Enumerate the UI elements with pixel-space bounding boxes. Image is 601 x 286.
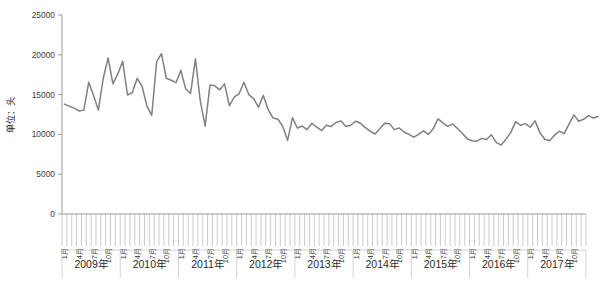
line-chart: 0500010000150002000025000 1月4月7月10月1月4月7…	[0, 0, 601, 286]
y-axis-title: 单位：头	[5, 97, 16, 133]
y-tick-label: 25000	[32, 10, 56, 20]
x-year-label: 2012年	[249, 258, 282, 270]
x-year-label: 2013年	[307, 258, 340, 270]
x-year-label: 2011年	[191, 258, 224, 270]
x-year-label: 2010年	[133, 258, 166, 270]
x-year-label: 2017年	[540, 258, 573, 270]
y-tick-label: 10000	[32, 129, 56, 139]
chart-container: 0500010000150002000025000 1月4月7月10月1月4月7…	[0, 0, 601, 286]
x-axis-ticks	[62, 214, 586, 246]
x-year-label: 2015年	[424, 258, 457, 270]
data-series-layer	[64, 54, 598, 146]
y-tick-label: 5000	[36, 169, 55, 179]
x-year-label: 2009年	[74, 258, 107, 270]
series-line-数量	[64, 54, 598, 146]
y-tick-label: 15000	[32, 90, 56, 100]
y-axis-title-group: 单位：头	[5, 97, 16, 133]
y-tick-label: 0	[50, 209, 55, 219]
x-year-label: 2014年	[366, 258, 399, 270]
axis-layer	[62, 15, 586, 214]
y-axis-ticks: 0500010000150002000025000	[32, 10, 62, 219]
y-tick-label: 20000	[32, 50, 56, 60]
x-year-label: 2016年	[482, 258, 515, 270]
